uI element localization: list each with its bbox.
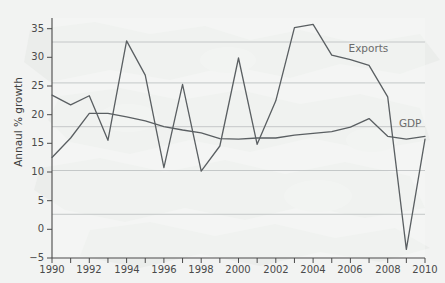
x-tick-label-1990: 1990 — [33, 264, 71, 275]
chart-figure: Annaul % growth 35 30 25 20 15 10 5 0 −5… — [0, 0, 445, 283]
series-label-gdp: GDP — [399, 117, 422, 129]
x-tick-label-2008: 2008 — [369, 264, 407, 275]
y-tick-label-20: 20 — [20, 109, 44, 120]
y-tick-label-minus5: −5 — [18, 252, 44, 263]
x-tick-label-1992: 1992 — [70, 264, 108, 275]
y-tick-marks — [47, 29, 52, 258]
x-tick-label-2002: 2002 — [257, 264, 295, 275]
x-tick-label-2004: 2004 — [294, 264, 332, 275]
x-tick-label-2000: 2000 — [219, 264, 257, 275]
series-label-exports: Exports — [349, 42, 389, 54]
y-tick-label-10: 10 — [20, 166, 44, 177]
x-tick-label-2006: 2006 — [331, 264, 369, 275]
y-tick-label-30: 30 — [20, 51, 44, 62]
y-tick-label-25: 25 — [20, 80, 44, 91]
y-tick-label-0: 0 — [20, 223, 44, 234]
y-tick-label-5: 5 — [20, 195, 44, 206]
x-tick-label-1996: 1996 — [145, 264, 183, 275]
x-tick-label-1998: 1998 — [182, 264, 220, 275]
x-tick-marks — [52, 258, 425, 263]
x-tick-label-1994: 1994 — [108, 264, 146, 275]
y-tick-label-35: 35 — [20, 23, 44, 34]
y-tick-label-15: 15 — [20, 137, 44, 148]
x-tick-label-2010: 2010 — [406, 264, 444, 275]
